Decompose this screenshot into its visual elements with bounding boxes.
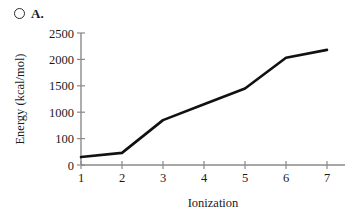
x-tick-label: 3 — [160, 171, 166, 185]
line-chart: 01001000150020002500 1234567 Ionization … — [0, 0, 355, 215]
x-tick-label: 5 — [242, 171, 248, 185]
x-tick-label: 6 — [283, 171, 289, 185]
y-tick-label-group: 01001000150020002500 — [49, 27, 74, 173]
x-axis-title: Ionization — [188, 196, 239, 210]
y-tick-label: 0 — [68, 159, 74, 173]
x-tick-label: 1 — [78, 171, 84, 185]
y-tick-label: 2000 — [49, 53, 74, 67]
chart-figure: 01001000150020002500 1234567 Ionization … — [0, 0, 355, 215]
x-tick-label: 4 — [201, 171, 208, 185]
y-tick-label: 100 — [55, 132, 74, 146]
y-tick-label: 1000 — [49, 106, 74, 120]
x-tick-label-group: 1234567 — [78, 171, 330, 185]
data-series-line — [81, 50, 327, 157]
x-tick-label: 2 — [119, 171, 125, 185]
y-axis-title: Energy (kcal/mol) — [13, 53, 27, 144]
x-tick-label: 7 — [324, 171, 330, 185]
y-tick-label: 2500 — [49, 27, 74, 41]
y-tick-label: 1500 — [49, 79, 74, 93]
